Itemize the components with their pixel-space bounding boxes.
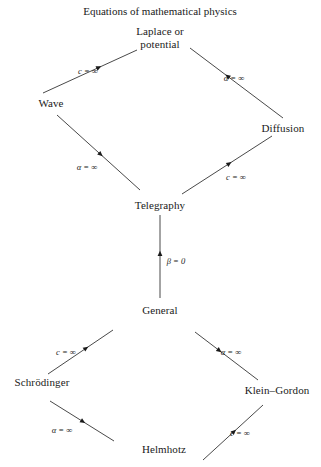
edge-arrowhead bbox=[83, 345, 90, 352]
diagram-canvas: Equations of mathematical physics Laplac… bbox=[0, 0, 321, 467]
edge-arrowhead bbox=[80, 418, 87, 425]
edge-label-general-to-kleingordon: α = ∞ bbox=[221, 347, 242, 357]
node-laplace-line1: Laplace or bbox=[136, 25, 184, 37]
node-helmhotz: Helmhotz bbox=[142, 443, 186, 456]
edge-line bbox=[182, 136, 272, 194]
edge-arrowhead bbox=[226, 160, 233, 167]
edge-label-schrodinger-to-helmhotz: α = ∞ bbox=[52, 425, 73, 435]
node-wave: Wave bbox=[38, 97, 63, 110]
edge-general-to-telegraphy bbox=[158, 215, 163, 298]
node-diffusion: Diffusion bbox=[262, 122, 305, 135]
edge-arrowhead bbox=[158, 251, 163, 256]
edge-line bbox=[190, 48, 283, 118]
node-klein-gordon: Klein–Gordon bbox=[245, 384, 310, 397]
edge-label-telegraphy-to-diffusion: c = ∞ bbox=[226, 172, 246, 182]
edge-label-general-to-telegraphy: β = 0 bbox=[167, 256, 185, 266]
edge-label-helmhotz-to-kleingordon: c = ∞ bbox=[230, 428, 250, 438]
node-laplace-line2: potential bbox=[140, 37, 179, 49]
edge-diffusion-to-laplace bbox=[190, 48, 283, 118]
edge-telegraphy-to-diffusion bbox=[182, 136, 272, 194]
edge-label-diffusion-to-laplace: α = ∞ bbox=[224, 73, 245, 83]
node-schrodinger: Schrödinger bbox=[15, 376, 70, 389]
node-telegraphy: Telegraphy bbox=[135, 199, 185, 212]
edge-schrodinger-to-helmhotz bbox=[50, 401, 114, 441]
edge-label-wave-to-telegraphy: α = ∞ bbox=[77, 162, 98, 172]
edge-line bbox=[57, 115, 140, 190]
diagram-edges-layer bbox=[0, 0, 321, 467]
edge-label-wave-to-laplace: c = ∞ bbox=[78, 66, 98, 76]
edge-wave-to-telegraphy bbox=[57, 115, 140, 190]
page-title: Equations of mathematical physics bbox=[83, 5, 237, 17]
edge-label-schrodinger-to-general: c = ∞ bbox=[56, 347, 76, 357]
node-general: General bbox=[142, 304, 178, 317]
node-laplace: Laplace or potential bbox=[120, 25, 200, 50]
